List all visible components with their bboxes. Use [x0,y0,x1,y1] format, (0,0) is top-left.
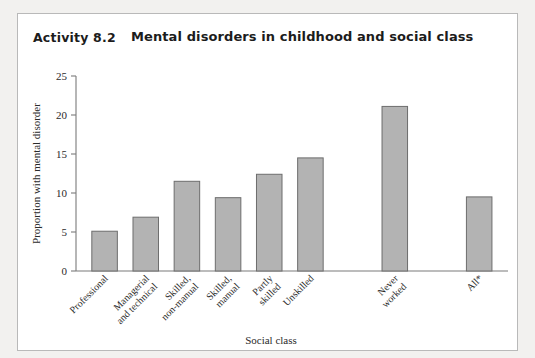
y-tick-label: 10 [56,187,68,199]
y-tick-label: 0 [62,265,68,277]
x-tick-label: Unskilled [281,273,316,308]
x-tick-label: All* [464,273,484,293]
bar [174,181,200,271]
bar [466,197,492,271]
x-axis-title: Social class [245,334,297,346]
x-tick-label: Skilled,non-manual [151,272,201,322]
bar [256,174,282,271]
x-tick-label: Neverworked [371,272,409,310]
figure-panel: Activity 8.2 Mental disorders in childho… [17,13,518,351]
bar [133,217,159,271]
bar-chart: 0510152025Proportion with mental disorde… [18,14,519,352]
y-tick-label: 25 [56,70,68,82]
bar [215,198,241,271]
bar [298,158,324,271]
x-tick-label: Managerialand technical [106,272,160,326]
y-tick-label: 20 [56,109,68,121]
y-tick-label: 15 [56,148,68,160]
y-tick-label: 5 [62,226,68,238]
x-tick-label-line: All* [464,273,484,293]
y-axis-title: Proportion with mental disorder [30,103,42,244]
x-tick-label: Professional [67,272,110,315]
x-tick-label-line: Professional [67,272,110,315]
bar [382,106,408,271]
x-tick-label: Partlyskilled [248,273,283,308]
chart-plot-area: 0510152025Proportion with mental disorde… [18,14,519,352]
x-tick-label-line: Unskilled [281,273,316,308]
bar [92,231,118,271]
x-tick-label: Skilled,manual [204,272,242,310]
